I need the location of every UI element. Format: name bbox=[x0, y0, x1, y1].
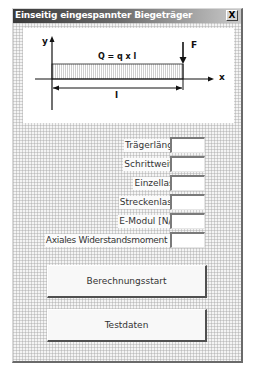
force-label: F bbox=[191, 40, 197, 50]
window-title: Einseitig eingespannter Biegeträger bbox=[15, 10, 192, 20]
load-formula: Q = q x l bbox=[98, 52, 136, 61]
widerstandsmoment-input[interactable] bbox=[170, 232, 205, 248]
title-bar[interactable]: Einseitig eingespannter Biegeträger X bbox=[13, 9, 241, 23]
close-icon: X bbox=[229, 10, 236, 20]
berechnungsstart-button[interactable]: Berechnungsstart bbox=[47, 265, 207, 298]
beam-diagram: y x Q = q x l F l bbox=[23, 28, 234, 123]
streckenlast-input[interactable] bbox=[170, 194, 205, 210]
emodul-input[interactable] bbox=[170, 213, 205, 229]
axis-x-label: x bbox=[219, 72, 225, 82]
axis-y-label: y bbox=[42, 36, 48, 46]
einzellast-input[interactable] bbox=[170, 175, 205, 191]
close-button[interactable]: X bbox=[226, 10, 238, 21]
schrittweite-input[interactable] bbox=[170, 156, 205, 172]
beam-diagram-svg bbox=[23, 28, 234, 123]
dialog-window: Einseitig eingespannter Biegeträger X bbox=[12, 8, 243, 363]
length-label: l bbox=[115, 90, 118, 100]
testdaten-button[interactable]: Testdaten bbox=[47, 309, 207, 342]
traegerlaenge-input[interactable] bbox=[170, 137, 205, 153]
